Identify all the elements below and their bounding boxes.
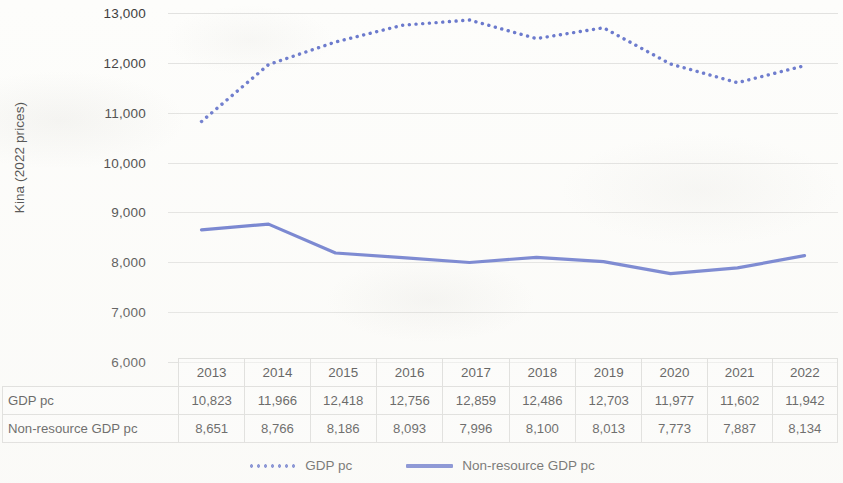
series-line-dotted — [202, 20, 805, 122]
y-axis-tick-label: 7,000 — [111, 305, 146, 320]
table-row: GDP pc10,82311,96612,41812,75612,85912,4… — [3, 387, 838, 415]
table-column-header: 2020 — [642, 359, 707, 387]
y-axis-tick-label: 10,000 — [104, 155, 147, 170]
series-line-solid — [202, 224, 805, 274]
table-corner-cell — [3, 359, 179, 387]
table-cell: 12,486 — [509, 387, 575, 415]
table-column-header: 2013 — [179, 359, 245, 387]
y-axis-tick-label: 8,000 — [111, 255, 146, 270]
table-cell: 11,977 — [642, 387, 707, 415]
table-cell: 12,418 — [310, 387, 376, 415]
table-cell: 7,996 — [443, 415, 509, 443]
table-cell: 12,756 — [376, 387, 442, 415]
table-cell: 10,823 — [179, 387, 245, 415]
y-axis-tick-label: 12,000 — [104, 55, 147, 70]
table-cell: 11,602 — [707, 387, 772, 415]
legend-key-dotted-icon — [248, 464, 296, 468]
data-table: 2013201420152016201720182019202020212022… — [2, 358, 838, 443]
plot-area — [168, 0, 838, 363]
table-cell: 8,100 — [509, 415, 575, 443]
table-cell: 12,703 — [576, 387, 642, 415]
table-cell: 8,766 — [245, 415, 310, 443]
series-layer — [168, 0, 838, 363]
table-row-label: Non-resource GDP pc — [3, 415, 179, 443]
table-cell: 8,186 — [310, 415, 376, 443]
y-axis-tick-labels: 13,00012,00011,00010,0009,0008,0007,0006… — [0, 0, 160, 375]
table-column-header: 2015 — [310, 359, 376, 387]
legend-item[interactable]: Non-resource GDP pc — [406, 458, 595, 473]
table-row-label: GDP pc — [3, 387, 179, 415]
table-cell: 11,966 — [245, 387, 310, 415]
y-axis-tick-label: 11,000 — [105, 105, 147, 120]
table-cell: 8,013 — [576, 415, 642, 443]
legend: GDP pcNon-resource GDP pc — [0, 458, 843, 473]
legend-label: GDP pc — [305, 458, 352, 473]
chart-figure: Kina (2022 prices) 13,00012,00011,00010,… — [0, 0, 843, 483]
table-cell: 11,942 — [772, 387, 837, 415]
table-body: GDP pc10,82311,96612,41812,75612,85912,4… — [3, 387, 838, 443]
legend-key-solid-icon — [406, 464, 453, 468]
table-cell: 12,859 — [443, 387, 509, 415]
table-column-header: 2014 — [245, 359, 310, 387]
y-axis-tick-label: 13,000 — [104, 6, 147, 21]
legend-item[interactable]: GDP pc — [248, 458, 352, 473]
table-column-header: 2017 — [443, 359, 509, 387]
table-header: 2013201420152016201720182019202020212022 — [3, 359, 838, 387]
table-cell: 8,134 — [772, 415, 837, 443]
table-header-row: 2013201420152016201720182019202020212022 — [3, 359, 838, 387]
table-column-header: 2022 — [772, 359, 837, 387]
table-cell: 8,093 — [376, 415, 442, 443]
table-column-header: 2018 — [509, 359, 575, 387]
table-cell: 7,773 — [642, 415, 707, 443]
table-column-header: 2016 — [376, 359, 442, 387]
table-column-header: 2019 — [576, 359, 642, 387]
legend-label: Non-resource GDP pc — [462, 458, 595, 473]
y-axis-tick-label: 9,000 — [111, 205, 146, 220]
table-row: Non-resource GDP pc8,6518,7668,1868,0937… — [3, 415, 838, 443]
table-cell: 7,887 — [707, 415, 772, 443]
table-cell: 8,651 — [179, 415, 245, 443]
table-column-header: 2021 — [707, 359, 772, 387]
